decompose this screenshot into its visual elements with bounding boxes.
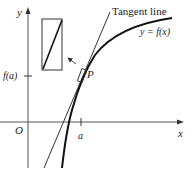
tangent-line-label: Tangent line (112, 5, 167, 17)
tangent-diagram: y x O a f(a) P Tangent line y = f(x) (0, 0, 192, 175)
x-axis-label: x (177, 127, 183, 139)
curve-label: y = f(x) (139, 26, 171, 38)
a-label: a (78, 130, 83, 141)
x-axis-arrow-icon (177, 120, 184, 125)
fa-label: f(a) (3, 70, 18, 82)
y-axis-label: y (16, 6, 22, 18)
point-p-label: P (86, 68, 94, 80)
origin-label: O (15, 124, 23, 136)
magnify-arrow (68, 58, 76, 64)
curve-y-f-x (62, 18, 172, 168)
y-axis-arrow-icon (26, 7, 31, 14)
